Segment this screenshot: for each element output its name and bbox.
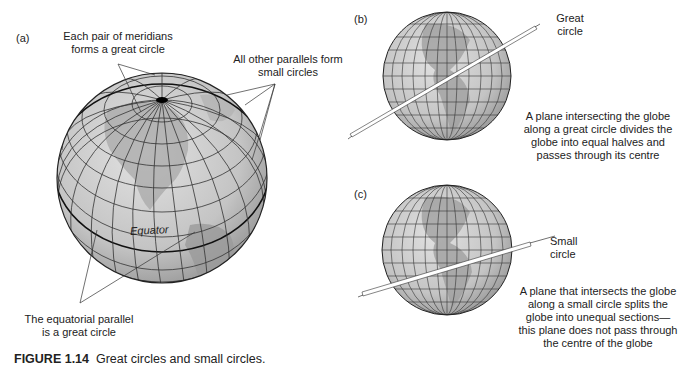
north-pole — [156, 97, 168, 103]
equatorial-parallel-label: The equatorial parallel is a great circl… — [14, 313, 144, 339]
globe-a — [54, 68, 270, 292]
panel-b-letter: (b) — [354, 13, 367, 25]
small-circle-label: Small circle — [550, 235, 590, 261]
figure-caption: FIGURE 1.14 Great circles and small circ… — [14, 352, 265, 366]
meridians-label: Each pair of meridians forms a great cir… — [48, 30, 188, 56]
globe-b — [380, 10, 515, 142]
small-circle-description: A plane that intersects the globe along … — [506, 285, 690, 350]
equator-label: Equator — [130, 223, 169, 237]
great-circle-description: A plane intersecting the globe along a g… — [508, 110, 688, 162]
panel-c-letter: (c) — [354, 188, 367, 200]
globe-c — [380, 183, 515, 317]
great-circle-label: Great circle — [545, 12, 595, 38]
parallels-label: All other parallels form small circles — [218, 53, 358, 79]
figure-title: Great circles and small circles. — [96, 352, 266, 366]
panel-a-letter: (a) — [16, 32, 29, 44]
figure-number: FIGURE 1.14 — [14, 352, 89, 366]
